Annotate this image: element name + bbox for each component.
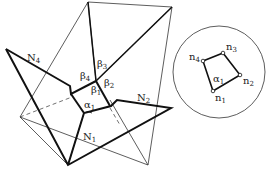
- edge-beta3-beta4: [88, 2, 96, 81]
- label-N1: N1: [83, 131, 96, 144]
- vertex-n2: [238, 73, 242, 77]
- gauss-sphere: n1 n2 n3 n4 α1: [173, 26, 265, 118]
- label-n4: n4: [189, 51, 200, 64]
- polyhedral-vertex-diagram: N4 N2 N1 β1 β2 β3 β4 α1 n1 n2 n3 n4 α1: [0, 0, 267, 171]
- label-n2: n2: [243, 75, 254, 88]
- edge-beta4-alpha1: [71, 94, 84, 113]
- edge-right: [148, 7, 172, 165]
- vertex-n4: [201, 59, 205, 63]
- edge-center-bottom-right: [110, 100, 148, 165]
- label-beta3: β3: [97, 58, 107, 71]
- sphere-circle: [173, 26, 265, 118]
- label-sphere-alpha1: α1: [213, 73, 224, 86]
- label-beta2: β2: [104, 77, 114, 90]
- label-beta4: β4: [80, 70, 91, 83]
- dashed-edge-left: [20, 97, 72, 117]
- label-n3: n3: [226, 41, 237, 54]
- edge-top: [88, 2, 172, 7]
- vertex-n3: [221, 51, 225, 55]
- dashed-edge-right: [110, 108, 120, 125]
- edge-beta3-beta2: [96, 7, 172, 81]
- label-n1: n1: [215, 92, 226, 105]
- label-alpha1: α1: [84, 99, 95, 112]
- edge-left-bottom: [20, 117, 68, 165]
